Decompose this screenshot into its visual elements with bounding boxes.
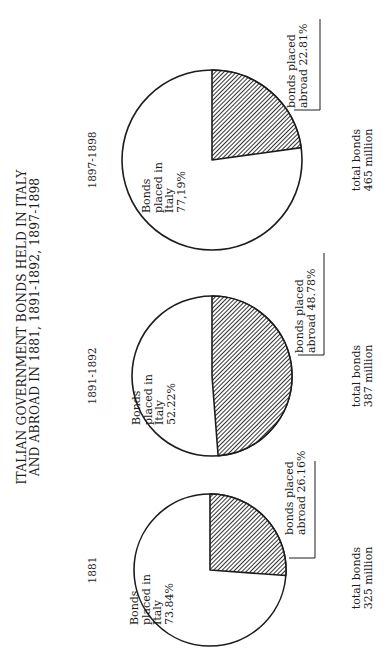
label-line: abroad 22.81% (297, 23, 310, 108)
chart-stage: ITALIAN GOVERNMENT BONDS HELD IN ITALY A… (0, 0, 389, 653)
pie-total-label: total bonds465 million (350, 128, 375, 191)
pie-total-label: total bonds387 million (350, 344, 375, 407)
label-line: 465 million (362, 129, 375, 192)
pies-group: 1881Bondsplaced inItaly73.84%bonds place… (86, 19, 375, 646)
chart-title-line-1: ITALIAN GOVERNMENT BONDS HELD IN ITALY (15, 169, 29, 485)
pie-total-label: total bonds325 million (350, 546, 375, 609)
pie-slice-abroad (210, 494, 286, 576)
label-line: 387 million (362, 345, 375, 408)
pie-1891-1892: 1891-1892Bondsplaced inItaly52.22%bonds … (86, 253, 375, 456)
label-line: abroad 26.16% (295, 450, 308, 535)
pie-chart-figure: ITALIAN GOVERNMENT BONDS HELD IN ITALY A… (0, 0, 389, 653)
pie-slice-abroad (212, 296, 292, 456)
pie-period-label: 1881 (86, 557, 98, 584)
pie-1897-1898: 1897-1898Bondsplaced inItaly77,19%bonds … (86, 19, 375, 250)
pie-1881: 1881Bondsplaced inItaly73.84%bonds place… (86, 450, 375, 646)
pie-label-abroad: bonds placedabroad 26.16% (283, 450, 308, 535)
label-line: 52.22% (165, 383, 178, 425)
label-line: 77,19% (175, 171, 188, 213)
label-line: abroad 48.78% (305, 268, 318, 353)
label-line: 325 million (362, 547, 375, 610)
pie-label-abroad: bonds placedabroad 22.81% (285, 23, 310, 108)
chart-title-line-2: AND ABROAD IN 1881, 1891-1892, 1897-1898 (28, 178, 42, 478)
pie-label-abroad: bonds placedabroad 48.78% (293, 268, 318, 353)
pie-period-label: 1897-1898 (86, 132, 98, 189)
pie-period-label: 1891-1892 (86, 348, 98, 405)
label-line: 73.84% (163, 583, 176, 625)
